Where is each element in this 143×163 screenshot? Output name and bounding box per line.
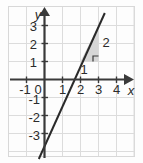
x-tick-label-2: 2 xyxy=(77,82,84,97)
y-tick-label--3: -3 xyxy=(28,128,40,143)
y-tick-label-1: 1 xyxy=(30,55,37,70)
x-tick-label--1: -1 xyxy=(19,82,31,97)
y-tick-label-2: 2 xyxy=(30,37,37,52)
coordinate-plane-figure: 3 2 1 -1 -2 -3 0 -1 1 2 3 4 y x 2 1 xyxy=(0,0,143,163)
x-tick-label-4: 4 xyxy=(113,82,120,97)
x-axis-label: x xyxy=(127,83,135,98)
origin-label: 0 xyxy=(34,82,41,97)
x-tick-label-3: 3 xyxy=(95,82,102,97)
rise-label: 2 xyxy=(102,35,109,50)
y-tick-label--2: -2 xyxy=(28,110,40,125)
graph-svg: 3 2 1 -1 -2 -3 0 -1 1 2 3 4 y x 2 1 xyxy=(0,0,143,163)
run-label: 1 xyxy=(80,62,87,77)
x-tick-label-1: 1 xyxy=(59,82,66,97)
